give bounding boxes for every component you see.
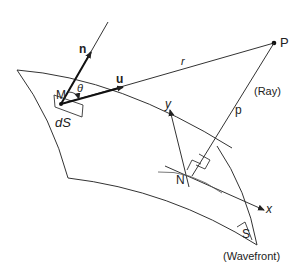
label-p-point: P (280, 36, 289, 49)
wavefront-surface (17, 70, 257, 245)
label-p-distance: p (235, 104, 242, 116)
label-u: u (116, 73, 123, 85)
tangent-curve (158, 172, 222, 193)
label-ray: (Ray) (254, 86, 281, 97)
label-y: y (165, 98, 171, 110)
wavefront-right-edge (217, 146, 257, 245)
label-ds: dS (55, 116, 71, 129)
point-m (59, 102, 63, 106)
wavefront-top-edge (17, 70, 232, 148)
diagram-graphics (0, 0, 299, 272)
wavefront-diagram: n u M θ dS r P (Ray) p y x N S (Wavefron… (0, 0, 299, 272)
label-s: S (242, 228, 250, 240)
label-m: M (56, 89, 66, 101)
label-r: r (181, 56, 185, 67)
wavefront-bottom-edge (68, 178, 257, 245)
label-wavefront: (Wavefront) (223, 251, 280, 262)
label-n: n (79, 43, 86, 55)
label-theta: θ (77, 83, 83, 94)
label-n-point: N (176, 174, 185, 186)
label-x: x (266, 203, 272, 215)
